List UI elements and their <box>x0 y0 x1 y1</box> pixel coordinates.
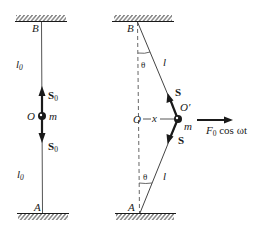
label-O-right: O <box>133 113 141 125</box>
label-force: F0 cos ωt <box>205 124 247 138</box>
label-l-lower-right: l <box>163 170 166 182</box>
lower-tension-arrow-right <box>170 121 177 138</box>
arrowhead-down-icon <box>39 133 46 143</box>
left-panel: B A l0 l0 S0 S0 O m <box>15 15 69 220</box>
label-l0-lower: l0 <box>17 168 24 182</box>
label-O-left: O <box>27 110 35 122</box>
mass-left <box>38 112 46 120</box>
label-B-left: B <box>32 22 39 34</box>
label-m-left: m <box>49 110 57 122</box>
angle-arc-upper <box>138 52 150 53</box>
bottom-support-right <box>115 214 176 221</box>
arrowhead-up-icon <box>39 86 46 96</box>
label-l-upper-right: l <box>163 56 166 68</box>
angle-arc-lower <box>139 183 152 184</box>
mass-right <box>174 115 182 123</box>
label-theta-lower: θ <box>143 172 147 182</box>
upper-tension-arrow-right <box>170 99 177 117</box>
label-O-prime: O′ <box>180 101 191 113</box>
bottom-support-left <box>17 214 69 221</box>
label-B-right: B <box>127 22 134 34</box>
right-panel: B A θ θ l l S S O x O′ m F0 cos ωt <box>112 15 247 220</box>
top-support-right <box>112 15 174 22</box>
label-theta-upper: θ <box>141 60 145 70</box>
string-mass-diagram: B A l0 l0 S0 S0 O m <box>0 0 255 230</box>
label-A-right: A <box>127 201 135 213</box>
arrowhead-upper-right-icon <box>167 93 174 103</box>
label-S0-lower: S0 <box>48 140 58 154</box>
arrowhead-lower-right-icon <box>167 134 174 144</box>
arrowhead-right-icon <box>224 117 233 124</box>
label-l0-upper: l0 <box>16 58 23 72</box>
label-S-lower-right: S <box>178 134 184 146</box>
label-m-right: m <box>184 120 192 132</box>
label-S-upper-right: S <box>175 86 181 98</box>
top-support-left <box>15 15 67 22</box>
label-S0-upper: S0 <box>48 89 58 103</box>
label-A-left: A <box>33 201 41 213</box>
label-x: x <box>151 112 157 124</box>
